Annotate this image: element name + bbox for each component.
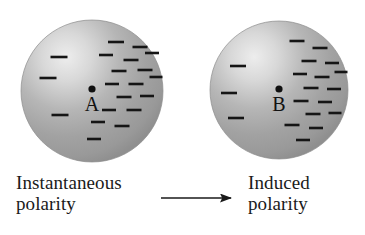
caption-left-line1: Instantaneous (16, 172, 122, 193)
sphere-b-center-dot (275, 85, 282, 92)
sphere-b (210, 21, 348, 159)
polarity-diagram: A B Instantaneous polarity Induced polar… (0, 0, 365, 235)
sphere-a (21, 20, 163, 162)
sphere-b-label: B (267, 93, 291, 116)
caption-instantaneous-polarity: Instantaneous polarity (16, 172, 122, 214)
caption-left-line2: polarity (16, 193, 122, 214)
caption-right-line1: Induced (248, 172, 310, 193)
caption-induced-polarity: Induced polarity (248, 172, 310, 214)
caption-right-line2: polarity (248, 193, 310, 214)
sphere-a-center-dot (88, 85, 95, 92)
sphere-a-label: A (80, 93, 104, 116)
